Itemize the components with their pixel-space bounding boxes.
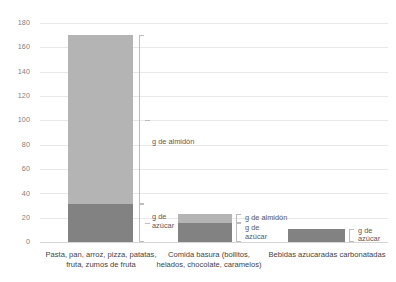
gridline-180 [40, 23, 388, 24]
bar-stack-bebidas [288, 229, 345, 242]
y-tick-180: 180 [0, 19, 30, 27]
y-tick-60: 60 [0, 165, 30, 173]
x-label-comida-basura-line1: Comida basura (bollitos, [168, 250, 250, 259]
annotation-sugar-pasta-line2: azúcar [152, 221, 174, 230]
bar-segment-sugar-comida-basura [178, 223, 232, 242]
y-tick-0: 0 [0, 238, 30, 246]
y-tick-80: 80 [0, 141, 30, 149]
y-tick-140: 140 [0, 68, 30, 76]
annotation-sugar-bebidas-line2: azúcar [358, 234, 380, 243]
y-tick-20: 20 [0, 214, 30, 222]
bar-segment-sugar-pasta [68, 204, 133, 242]
bar-segment-starch-comida-basura [178, 214, 232, 223]
annotation-sugar-bebidas: g deazúcar [358, 227, 380, 244]
x-label-pasta-line1: Pasta, pan, arroz, pizza, patatas, [45, 250, 156, 259]
bracket-sugar-comida-basura [236, 223, 241, 243]
annotation-sugar-comida-basura: g deazúcar [245, 224, 267, 241]
bar-stack-comida-basura [178, 214, 232, 242]
bar-segment-sugar-bebidas [288, 229, 345, 242]
x-label-bebidas: Bebidas azucaradas carbonatadas [260, 250, 394, 260]
bracket-tick-starch-pasta [145, 120, 150, 121]
bracket-starch-comida-basura [236, 214, 241, 223]
y-tick-100: 100 [0, 116, 30, 124]
bar-chart: 180 160 140 120 100 80 60 40 20 0 [0, 0, 396, 282]
gridline-0 [40, 242, 388, 243]
x-label-comida-basura-line2: helados, chocolate, caramelos) [156, 260, 261, 269]
annotation-sugar-comida-basura-line2: azúcar [245, 232, 267, 241]
x-label-bebidas-line1: Bebidas azucaradas carbonatadas [269, 250, 386, 259]
bracket-starch-pasta [139, 35, 144, 204]
bar-stack-pasta [68, 35, 133, 242]
plot-area: g de almidón g deazúcar g de almidón g d… [40, 23, 388, 242]
bracket-tick-sugar-pasta [145, 223, 150, 224]
annotation-sugar-pasta: g deazúcar [152, 213, 174, 230]
x-label-pasta-line2: fruta, zumos de fruta [66, 260, 136, 269]
bracket-sugar-pasta [139, 204, 144, 242]
bracket-sugar-bebidas [349, 229, 354, 242]
annotation-starch-comida-basura: g de almidón [245, 214, 287, 223]
annotation-starch-pasta: g de almidón [152, 138, 194, 147]
y-tick-160: 160 [0, 43, 30, 51]
y-tick-120: 120 [0, 92, 30, 100]
bar-segment-starch-pasta [68, 35, 133, 204]
x-label-comida-basura: Comida basura (bollitos, helados, chocol… [150, 250, 268, 269]
y-tick-40: 40 [0, 190, 30, 198]
